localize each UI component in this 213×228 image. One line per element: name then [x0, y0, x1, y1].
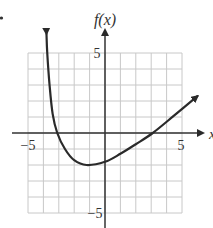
axes [12, 30, 203, 228]
x-min-tick-label: −5 [21, 138, 36, 153]
y-axis-label: f(x) [94, 11, 116, 29]
x-max-tick-label: 5 [178, 138, 185, 153]
bullet-dot [0, 16, 3, 19]
function-graph: f(x) x −5 5 5 −5 [0, 0, 213, 228]
y-min-tick-label: −5 [88, 206, 103, 221]
x-axis-label: x [208, 126, 213, 142]
y-max-tick-label: 5 [94, 46, 101, 61]
